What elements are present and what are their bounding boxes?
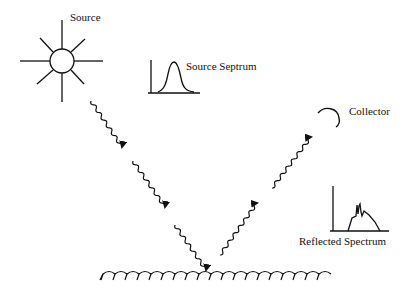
surface-tick — [221, 274, 223, 280]
source-label: Source — [70, 12, 101, 23]
surface-tick — [233, 274, 235, 280]
surface-tick — [317, 274, 319, 280]
surface-tick — [245, 274, 247, 280]
incident-ray-1 — [91, 101, 123, 147]
reflected-spectrum-plot — [330, 186, 389, 231]
reflected-spectrum-curve — [348, 204, 380, 231]
source-spectrum-label: Source Septrum — [186, 61, 257, 72]
surface-profile — [100, 272, 331, 281]
incident-ray-2 — [133, 161, 166, 207]
incident-ray-3 — [175, 225, 207, 270]
surface-tick — [293, 274, 295, 280]
surface-tick — [281, 274, 283, 280]
surface-tick — [137, 274, 139, 280]
surface-tick — [125, 274, 127, 280]
surface-tick — [173, 274, 175, 280]
surface-tick — [305, 274, 307, 280]
surface-tick — [149, 274, 151, 280]
surface-tick — [113, 274, 115, 280]
collector-icon — [318, 108, 339, 127]
surface-tick — [197, 274, 199, 280]
collector-label: Collector — [349, 106, 390, 117]
surface-tick — [209, 274, 211, 280]
surface-tick — [269, 274, 271, 280]
reflected-ray-1 — [220, 203, 257, 255]
surface-tick — [257, 274, 259, 280]
reflectance-diagram — [0, 0, 407, 298]
sun-icon — [20, 20, 103, 102]
rough-surface — [100, 272, 331, 281]
surface-tick — [161, 274, 163, 280]
reflected-spectrum-label: Reflected Spectrum — [299, 236, 386, 247]
surface-tick — [185, 274, 187, 280]
reflected-ray-2 — [272, 137, 311, 188]
